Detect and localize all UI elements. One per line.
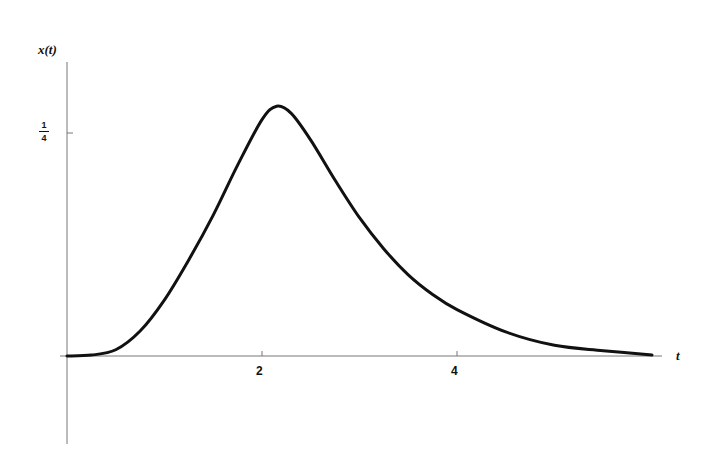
- fraction-numerator: 1: [41, 120, 46, 130]
- y-tick-label-quarter: 1 4: [38, 120, 50, 143]
- fraction-bar: [39, 131, 49, 132]
- y-axis-title: x(t): [38, 42, 57, 58]
- x-tick-label-2: 2: [256, 364, 263, 378]
- x-axis-title: t: [676, 348, 680, 364]
- fraction-denominator: 4: [41, 133, 46, 143]
- data-curve: [67, 106, 652, 356]
- x-ticks: [262, 351, 457, 356]
- x-tick-label-4: 4: [451, 364, 458, 378]
- line-chart: [0, 0, 716, 460]
